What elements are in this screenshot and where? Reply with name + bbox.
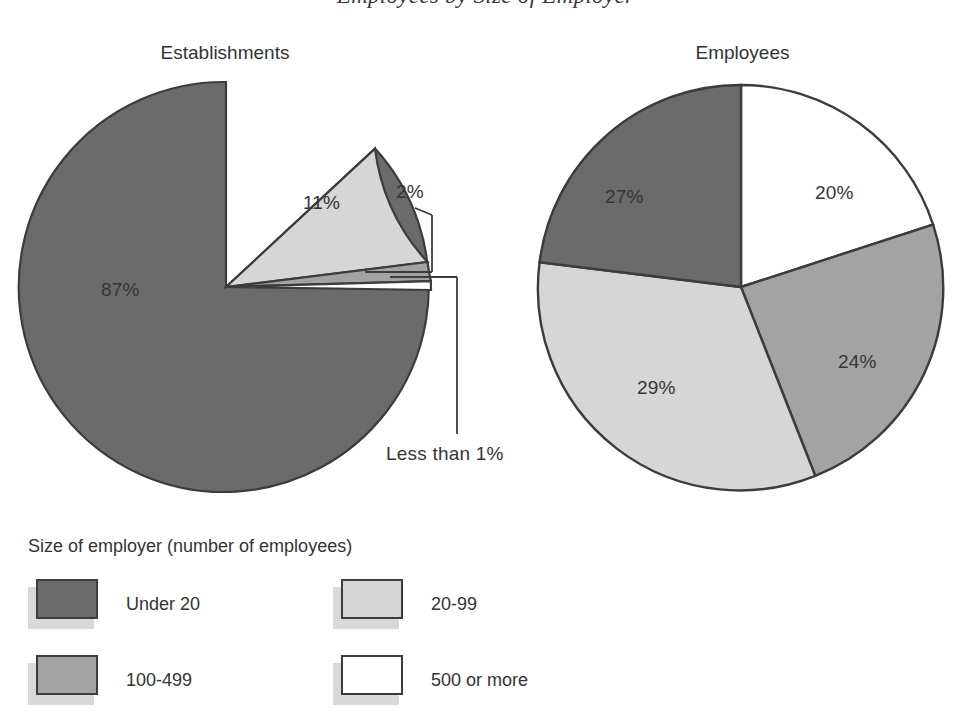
pie-establishments bbox=[19, 82, 431, 492]
legend-swatch-500-or-more bbox=[333, 655, 409, 705]
legend-item-500-or-more[interactable]: 500 or more bbox=[333, 655, 528, 705]
pct-label-employees-500-or-more: 20% bbox=[815, 182, 854, 204]
swatch-fill bbox=[341, 579, 403, 619]
pct-label-establishments-500-or-more: Less than 1% bbox=[386, 443, 504, 465]
pct-label-employees-under20: 27% bbox=[605, 186, 644, 208]
legend-item-under-20[interactable]: Under 20 bbox=[28, 579, 200, 629]
swatch-fill bbox=[341, 655, 403, 695]
pct-label-establishments-under20: 87% bbox=[101, 279, 140, 301]
legend-swatch-100-499 bbox=[28, 655, 104, 705]
pie-employees bbox=[538, 85, 943, 490]
legend-swatch-under-20 bbox=[28, 579, 104, 629]
pct-label-establishments-20-99: 11% bbox=[303, 192, 340, 214]
swatch-fill bbox=[36, 579, 98, 619]
legend-swatch-20-99 bbox=[333, 579, 409, 629]
legend-title: Size of employer (number of employees) bbox=[28, 536, 668, 557]
legend-label-under-20: Under 20 bbox=[126, 594, 200, 615]
pct-label-employees-20-99: 29% bbox=[637, 377, 676, 399]
swatch-fill bbox=[36, 655, 98, 695]
legend-label-100-499: 100-499 bbox=[126, 670, 192, 691]
pct-label-establishments-100-499: 2% bbox=[396, 181, 424, 203]
pct-label-employees-100-499: 24% bbox=[838, 351, 877, 373]
legend-label-500-or-more: 500 or more bbox=[431, 670, 528, 691]
legend-item-100-499[interactable]: 100-499 bbox=[28, 655, 192, 705]
legend-item-20-99[interactable]: 20-99 bbox=[333, 579, 477, 629]
legend-label-20-99: 20-99 bbox=[431, 594, 477, 615]
legend: Size of employer (number of employees) U… bbox=[28, 536, 668, 579]
